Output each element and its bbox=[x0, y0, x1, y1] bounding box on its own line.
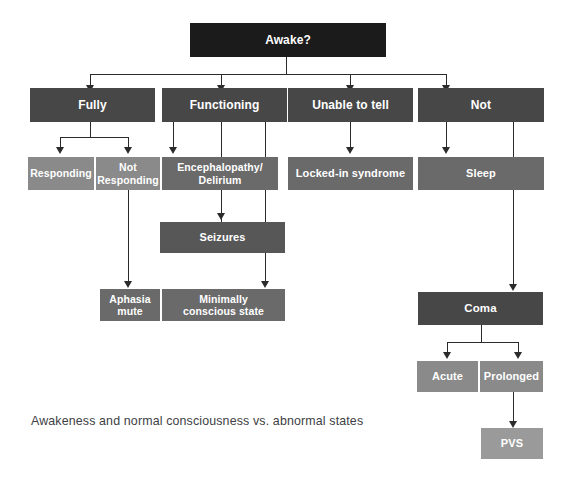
node-prolonged[interactable]: Prolonged bbox=[480, 361, 543, 392]
node-acute-label: Acute bbox=[432, 370, 463, 383]
connector-enceph-seizures bbox=[221, 190, 222, 214]
node-encephalopathy-delirium[interactable]: Encephalopathy/ Delirium bbox=[162, 157, 278, 190]
node-encephalopathy-delirium-label: Encephalopathy/ Delirium bbox=[177, 161, 263, 186]
connector-coma-bus bbox=[447, 342, 519, 343]
node-aphasia-mute[interactable]: Aphasia mute bbox=[100, 289, 160, 321]
node-aphasia-mute-label: Aphasia mute bbox=[109, 293, 151, 318]
node-unable-to-tell[interactable]: Unable to tell bbox=[288, 88, 413, 122]
connector-not-coma bbox=[513, 122, 514, 285]
connector-level1-bus bbox=[90, 74, 446, 75]
connector-not-sleep bbox=[446, 122, 447, 148]
arrow-pvs bbox=[509, 421, 517, 428]
flowchart-canvas: Awake? Fully Functioning Unable to tell … bbox=[0, 0, 568, 481]
arrow-encephalopathy bbox=[169, 147, 177, 154]
node-seizures[interactable]: Seizures bbox=[160, 222, 285, 253]
arrow-sleep bbox=[442, 147, 450, 154]
node-awake[interactable]: Awake? bbox=[190, 23, 386, 57]
connector-coma-stem bbox=[481, 325, 482, 343]
node-awake-label: Awake? bbox=[265, 33, 311, 47]
node-coma[interactable]: Coma bbox=[418, 292, 543, 325]
node-acute[interactable]: Acute bbox=[417, 361, 478, 392]
connector-fully-bus bbox=[60, 137, 129, 138]
node-prolonged-label: Prolonged bbox=[484, 370, 539, 383]
node-locked-in-syndrome[interactable]: Locked-in syndrome bbox=[288, 157, 413, 190]
node-pvs[interactable]: PVS bbox=[481, 428, 543, 459]
node-pvs-label: PVS bbox=[501, 437, 523, 450]
node-unable-to-tell-label: Unable to tell bbox=[312, 98, 389, 112]
node-not-label: Not bbox=[471, 98, 491, 112]
node-functioning[interactable]: Functioning bbox=[162, 88, 287, 122]
node-seizures-label: Seizures bbox=[199, 231, 245, 244]
node-locked-in-syndrome-label: Locked-in syndrome bbox=[296, 167, 405, 180]
node-responding-label: Responding bbox=[30, 167, 92, 179]
connector-awake-stem bbox=[286, 57, 287, 75]
arrow-aphasia-mute bbox=[124, 281, 132, 288]
node-sleep-label: Sleep bbox=[466, 167, 496, 180]
connector-prolonged-pvs bbox=[513, 392, 514, 422]
connector-unable-lockedin bbox=[350, 122, 351, 148]
arrow-not-responding bbox=[124, 147, 132, 154]
arrow-acute bbox=[443, 352, 451, 359]
node-not[interactable]: Not bbox=[418, 88, 544, 122]
node-coma-label: Coma bbox=[464, 302, 496, 316]
connector-functioning-enceph bbox=[173, 122, 174, 148]
arrow-prolonged bbox=[514, 352, 522, 359]
connector-notresponding-aphasia bbox=[128, 190, 129, 282]
node-not-responding[interactable]: Not Responding bbox=[96, 157, 160, 190]
arrow-seizures bbox=[217, 213, 225, 220]
connector-fully-stem bbox=[90, 122, 91, 138]
arrow-locked-in bbox=[346, 147, 354, 154]
node-fully[interactable]: Fully bbox=[30, 88, 155, 122]
node-responding[interactable]: Responding bbox=[28, 157, 94, 190]
arrow-responding bbox=[56, 147, 64, 154]
arrow-minimally-conscious bbox=[261, 281, 269, 288]
node-minimally-conscious-state-label: Minimally conscious state bbox=[183, 293, 264, 318]
node-minimally-conscious-state[interactable]: Minimally conscious state bbox=[162, 289, 285, 321]
node-functioning-label: Functioning bbox=[190, 98, 260, 112]
connector-functioning-minimally bbox=[265, 122, 266, 282]
node-fully-label: Fully bbox=[78, 98, 107, 112]
diagram-caption: Awakeness and normal consciousness vs. a… bbox=[31, 414, 363, 428]
node-not-responding-label: Not Responding bbox=[97, 161, 159, 186]
node-sleep[interactable]: Sleep bbox=[418, 157, 544, 190]
arrow-coma bbox=[509, 284, 517, 291]
